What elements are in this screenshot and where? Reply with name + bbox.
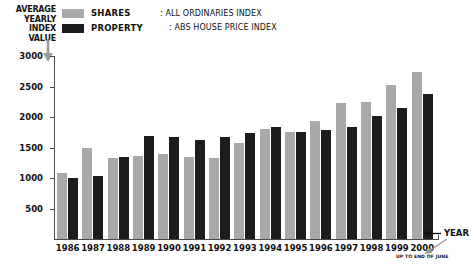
bar-property-1988 — [119, 157, 129, 239]
bar-group: 1992 — [207, 56, 232, 239]
legend-label-property: PROPERTY — [91, 23, 143, 33]
y-axis-title-line-3: INDEX — [2, 24, 56, 34]
y-axis-tick-label: 3000 — [19, 51, 43, 61]
bar-shares-1992 — [209, 158, 219, 239]
footnote-arrow-icon — [421, 238, 447, 254]
y-axis-title: AVERAGE YEARLY INDEX VALUE — [2, 5, 56, 43]
bar-shares-1990 — [158, 154, 168, 239]
x-axis-line — [54, 239, 439, 240]
bar-groups: 1986198719881989199019911992199319941995… — [55, 56, 435, 239]
legend-label-shares: SHARES — [91, 8, 131, 18]
bar-property-1998 — [372, 116, 382, 239]
bar-property-1992 — [220, 137, 230, 239]
series-note-shares: : ALL ORDINARIES INDEX — [160, 7, 277, 21]
x-axis-label: YEAR — [444, 228, 469, 238]
bar-property-1990 — [169, 137, 179, 239]
y-axis-tick-label: 1000 — [19, 173, 43, 183]
bar-property-1997 — [347, 127, 357, 239]
bar-group: 1987 — [80, 56, 105, 239]
bar-property-1994 — [271, 127, 281, 239]
y-axis-tick-label: 2500 — [19, 82, 43, 92]
bar-property-1993 — [245, 133, 255, 239]
bar-property-1987 — [93, 176, 103, 239]
bar-group: 1998 — [359, 56, 384, 239]
x-axis-tick-label: 1997 — [334, 243, 358, 253]
bar-shares-1994 — [260, 129, 270, 239]
x-axis-footnote: UP TO END OF JUNE — [396, 254, 449, 259]
y-axis-title-line-2: YEARLY — [2, 15, 56, 25]
bar-property-1999 — [397, 108, 407, 239]
bar-group: 1999 — [384, 56, 409, 239]
bar-shares-1986 — [57, 173, 67, 239]
series-note-property: : ABS HOUSE PRICE INDEX — [160, 21, 277, 35]
x-axis-tick-label: 1992 — [208, 243, 232, 253]
legend-item-property: PROPERTY — [62, 22, 143, 34]
bar-group: 1995 — [283, 56, 308, 239]
x-axis-tick-label: 1987 — [81, 243, 105, 253]
bar-shares-1997 — [336, 103, 346, 239]
y-axis-title-line-1: AVERAGE — [2, 5, 56, 15]
series-notes: : ALL ORDINARIES INDEX : ABS HOUSE PRICE… — [160, 7, 277, 34]
x-axis-tick-label: 1989 — [132, 243, 156, 253]
bar-shares-1993 — [234, 143, 244, 239]
x-axis-tick-label: 1988 — [106, 243, 130, 253]
bar-property-2000 — [423, 94, 433, 239]
bar-group: 1988 — [106, 56, 131, 239]
y-axis-tick-label: 500 — [25, 204, 43, 214]
bar-property-1995 — [296, 132, 306, 239]
legend-item-shares: SHARES — [62, 7, 143, 19]
x-axis-tick-label: 1993 — [233, 243, 257, 253]
x-axis-tick-label: 1991 — [182, 243, 206, 253]
bar-group: 1994 — [258, 56, 283, 239]
plot-area: 50010001500200025003000 1986198719881989… — [55, 56, 435, 239]
year-arrow-icon — [423, 229, 441, 238]
bar-group: 1996 — [308, 56, 333, 239]
bar-property-1989 — [144, 136, 154, 239]
x-axis-tick-label: 1994 — [258, 243, 282, 253]
bar-group: 1993 — [232, 56, 257, 239]
bar-property-1996 — [321, 130, 331, 239]
x-axis-tick-label: 1998 — [360, 243, 384, 253]
x-axis-tick-label: 1999 — [385, 243, 409, 253]
bar-shares-1999 — [386, 85, 396, 239]
bar-group: 1989 — [131, 56, 156, 239]
legend-swatch-property-icon — [62, 24, 84, 33]
bar-property-1986 — [68, 178, 78, 239]
x-axis-tick-label: 1995 — [284, 243, 308, 253]
bar-shares-1991 — [184, 157, 194, 239]
bar-shares-1996 — [310, 121, 320, 239]
y-axis-arrow-icon — [42, 40, 54, 62]
y-axis-tick-label: 2000 — [19, 112, 43, 122]
bar-shares-2000 — [412, 72, 422, 239]
bar-group: 1986 — [55, 56, 80, 239]
legend-swatch-shares-icon — [62, 9, 84, 18]
bar-shares-1998 — [361, 102, 371, 239]
bar-group: 2000UP TO END OF JUNE — [410, 56, 435, 239]
bar-shares-1988 — [108, 158, 118, 239]
bar-property-1991 — [195, 140, 205, 239]
x-axis-tick-label: 1990 — [157, 243, 181, 253]
bar-shares-1989 — [133, 156, 143, 239]
bar-group: 1991 — [182, 56, 207, 239]
bar-group: 1990 — [156, 56, 181, 239]
bar-shares-1987 — [82, 148, 92, 240]
bar-group: 1997 — [334, 56, 359, 239]
y-axis-tick-label: 1500 — [19, 143, 43, 153]
x-axis-tick-label: 1986 — [56, 243, 80, 253]
x-axis-tick-label: 1996 — [309, 243, 333, 253]
chart-root: AVERAGE YEARLY INDEX VALUE SHARES PROPER… — [0, 0, 471, 268]
bar-shares-1995 — [285, 132, 295, 239]
legend: SHARES PROPERTY — [62, 7, 143, 37]
